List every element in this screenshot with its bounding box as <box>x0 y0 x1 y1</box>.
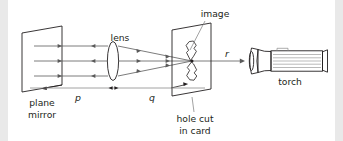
ray-arrowhead-right-mid <box>58 59 62 63</box>
plane-mirror-group <box>22 26 62 92</box>
label-torch: torch <box>278 76 302 87</box>
torch-neck-shape <box>258 50 271 73</box>
tick-lens-left-arrowhead-icon <box>109 86 113 90</box>
ray-arrowhead-conv2-bottom <box>165 63 170 67</box>
leader-lines-group <box>190 21 205 112</box>
ray-arrowhead-right-top <box>58 44 62 48</box>
optics-ray-diagram: plane mirror lens image hole cut in card… <box>0 0 343 141</box>
torch-group <box>249 48 327 74</box>
ray-arrowhead-conv-bottom <box>136 69 141 73</box>
lens-group <box>107 42 118 81</box>
ray-arrowhead-conv-top <box>136 49 141 53</box>
figure-root: plane mirror lens image hole cut in card… <box>0 0 343 141</box>
ray-arrowhead-right-bottom <box>58 74 62 78</box>
ray-arrowhead-left-mid <box>91 59 95 63</box>
hole-leader-line <box>192 97 194 112</box>
label-distance-q: q <box>149 92 155 103</box>
label-lens: lens <box>111 32 130 43</box>
card-group <box>171 23 211 96</box>
hole-blob-lower-icon <box>187 62 197 80</box>
ray-arrowhead-left-bottom <box>91 74 95 78</box>
lens-shape <box>107 42 118 81</box>
label-image: image <box>201 8 230 19</box>
label-hole-cut-line1: hole cut <box>176 113 213 124</box>
ray-arrowhead-left-top <box>91 44 95 48</box>
label-plane-mirror-line1: plane <box>29 97 55 108</box>
label-distance-r: r <box>225 48 230 59</box>
ray-converging-top <box>118 46 192 61</box>
ray-arrowhead-conv2-mid <box>166 59 170 63</box>
plane-mirror-shape <box>22 26 62 92</box>
ray-arrowhead-to-torch <box>240 58 245 63</box>
tick-lens-right-arrowhead-icon <box>114 86 118 90</box>
torch-end-cap-shape <box>323 50 328 72</box>
label-hole-cut-line2: in card <box>179 125 210 136</box>
focal-point-dot <box>191 60 194 63</box>
label-plane-mirror-line2: mirror <box>28 109 56 120</box>
torch-ribbing-lines <box>273 55 321 68</box>
ray-converging-bottom <box>118 61 192 76</box>
ray-arrowhead-conv-mid <box>137 59 141 63</box>
hole-pointer-arrowhead-icon <box>183 82 188 86</box>
image-blob-upper-icon <box>186 41 196 61</box>
label-distance-p: p <box>74 92 81 103</box>
ray-arrowhead-conv2-top <box>165 55 170 59</box>
